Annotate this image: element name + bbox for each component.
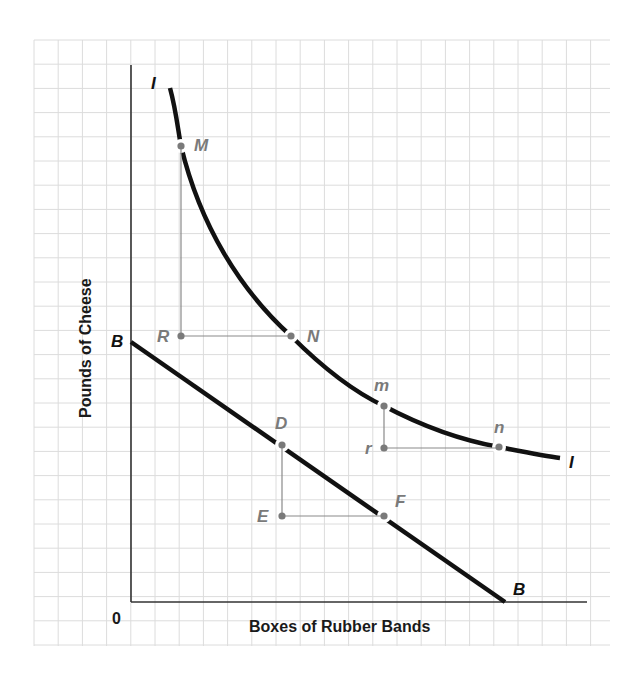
label-R: R	[157, 327, 170, 346]
label-M: M	[194, 136, 209, 155]
label-D: D	[275, 414, 287, 433]
diagram-canvas: I I B B M R N m r n D E F 0 Boxes of Rub…	[0, 0, 640, 684]
point-E	[278, 512, 285, 519]
triangle-MRN	[181, 146, 291, 336]
origin-label: 0	[112, 610, 121, 627]
label-B-end: B	[513, 580, 525, 599]
label-m: m	[374, 376, 389, 395]
label-I-start: I	[151, 74, 157, 93]
label-n: n	[494, 418, 504, 437]
points	[177, 142, 502, 519]
point-n	[495, 443, 502, 450]
point-N	[287, 332, 294, 339]
label-E: E	[257, 507, 269, 526]
x-axis-title: Boxes of Rubber Bands	[249, 618, 430, 635]
y-axis-title: Pounds of Cheese	[77, 278, 94, 418]
label-r: r	[365, 439, 373, 458]
point-m	[380, 402, 387, 409]
label-F: F	[395, 492, 406, 511]
point-D	[278, 441, 285, 448]
label-I-end: I	[569, 453, 575, 472]
point-F	[380, 512, 387, 519]
helper-lines	[181, 146, 499, 516]
point-M	[177, 142, 184, 149]
label-N: N	[307, 327, 320, 346]
label-B-start: B	[111, 332, 123, 351]
point-r	[380, 444, 387, 451]
point-gaps	[174, 139, 506, 523]
point-R	[177, 332, 184, 339]
budget-line	[131, 342, 505, 602]
